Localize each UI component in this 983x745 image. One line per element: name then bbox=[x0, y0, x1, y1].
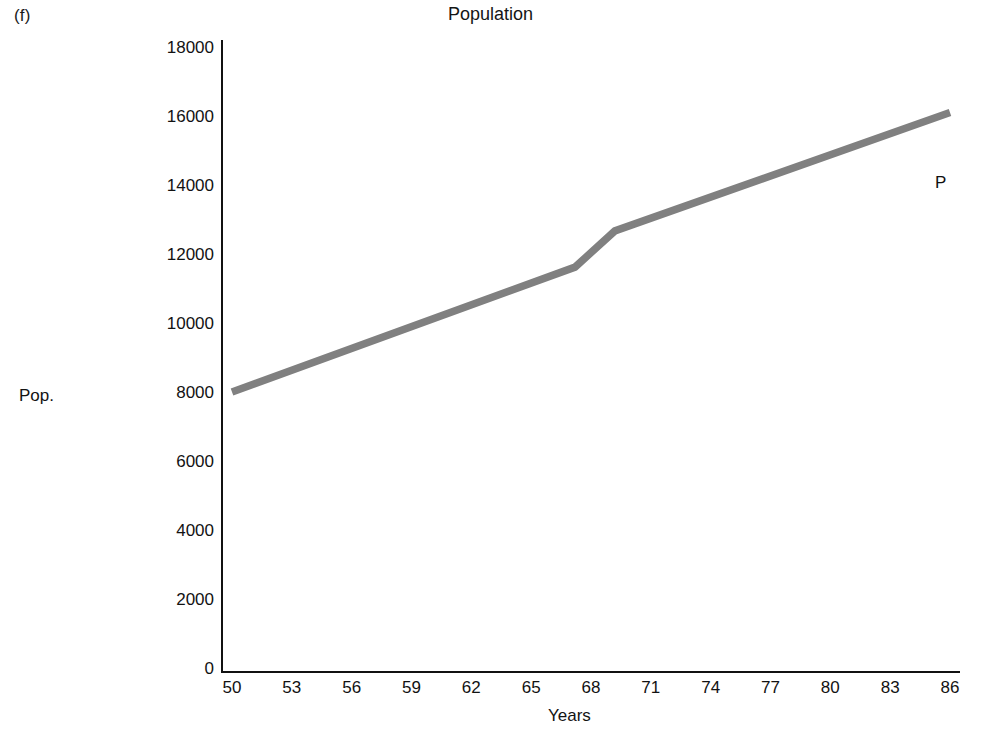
y-tick-label: 10000 bbox=[167, 314, 214, 333]
y-tick-label: 12000 bbox=[167, 245, 214, 264]
x-tick-label: 77 bbox=[761, 678, 780, 697]
x-tick-label: 74 bbox=[701, 678, 720, 697]
y-tick-label: 2000 bbox=[176, 590, 214, 609]
data-series-p bbox=[232, 113, 950, 392]
y-tick-label: 6000 bbox=[176, 452, 214, 471]
y-tick-label: 8000 bbox=[176, 383, 214, 402]
x-tick-label: 50 bbox=[223, 678, 242, 697]
y-tick-label: 14000 bbox=[167, 176, 214, 195]
x-tick-label: 53 bbox=[282, 678, 301, 697]
figure-population: (f) Population Pop. Years P 020004000600… bbox=[0, 0, 983, 745]
x-tick-label: 80 bbox=[821, 678, 840, 697]
plot-area: 0200040006000800010000120001400016000180… bbox=[0, 0, 983, 745]
x-tick-label: 56 bbox=[342, 678, 361, 697]
y-tick-label: 0 bbox=[205, 659, 214, 678]
y-tick-labels: 0200040006000800010000120001400016000180… bbox=[167, 38, 214, 678]
x-tick-label: 62 bbox=[462, 678, 481, 697]
y-tick-label: 16000 bbox=[167, 107, 214, 126]
x-tick-label: 68 bbox=[582, 678, 601, 697]
x-tick-labels: 50535659626568717477808386 bbox=[223, 678, 960, 697]
x-tick-label: 71 bbox=[641, 678, 660, 697]
x-tick-label: 65 bbox=[522, 678, 541, 697]
x-tick-label: 86 bbox=[941, 678, 960, 697]
y-tick-label: 18000 bbox=[167, 38, 214, 57]
x-tick-label: 59 bbox=[402, 678, 421, 697]
y-tick-label: 4000 bbox=[176, 521, 214, 540]
x-tick-label: 83 bbox=[881, 678, 900, 697]
